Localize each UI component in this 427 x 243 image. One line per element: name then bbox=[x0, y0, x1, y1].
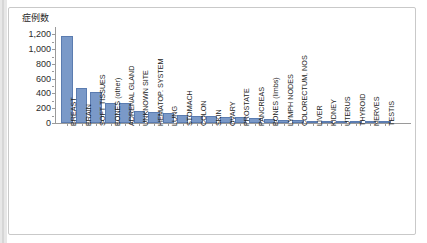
x-axis-label: PANCREAS bbox=[258, 87, 265, 126]
x-axis-label: COLORECTUM, NOS bbox=[301, 55, 308, 126]
y-minor-tick-mark bbox=[52, 86, 54, 87]
x-axis-label: COLON bbox=[200, 100, 207, 126]
x-axis-label: BONES (other) bbox=[114, 78, 121, 126]
x-tick-mark bbox=[240, 124, 241, 126]
x-axis-label: PROSTATE bbox=[243, 88, 250, 126]
x-tick-mark bbox=[67, 124, 68, 126]
x-axis-label: KIDNEY bbox=[330, 99, 337, 126]
x-axis-label: THYROID bbox=[359, 94, 366, 126]
y-minor-tick-mark bbox=[52, 71, 54, 72]
y-tick-label: 800 bbox=[36, 59, 51, 69]
x-axis-label: ADRENAL GLAND bbox=[128, 66, 135, 126]
x-tick-mark bbox=[269, 124, 270, 126]
x-tick-mark bbox=[139, 124, 140, 126]
chart-figure: 症例数 02004006008001,0001,200 BREASTBRAINS… bbox=[0, 0, 427, 243]
x-axis-label: TESTIS bbox=[388, 101, 395, 126]
x-tick-mark bbox=[212, 124, 213, 126]
x-tick-mark bbox=[370, 124, 371, 126]
x-axis-label: UTERUS bbox=[344, 96, 351, 126]
x-tick-mark bbox=[341, 124, 342, 126]
x-axis-label: UNKNOWN SITE bbox=[142, 70, 149, 126]
x-axis-label: NERVES bbox=[373, 97, 380, 126]
x-tick-mark bbox=[183, 124, 184, 126]
x-axis-label: BONES (limbs) bbox=[272, 77, 279, 126]
x-tick-mark bbox=[226, 124, 227, 126]
x-axis-label: SKIN bbox=[215, 109, 222, 126]
x-tick-mark bbox=[327, 124, 328, 126]
x-axis-label: LUNG bbox=[171, 106, 178, 126]
y-tick-label: 600 bbox=[36, 74, 51, 84]
y-tick-label: 1,200 bbox=[28, 29, 51, 39]
scan-edge-left-dark bbox=[2, 0, 4, 243]
y-axis-title: 症例数 bbox=[22, 11, 49, 24]
x-axis-label: HEMATOP. SYSTEM bbox=[157, 59, 164, 127]
x-tick-mark bbox=[385, 124, 386, 126]
x-tick-mark bbox=[154, 124, 155, 126]
x-tick-mark bbox=[255, 124, 256, 126]
x-tick-mark bbox=[82, 124, 83, 126]
x-axis-label: BREAST bbox=[70, 97, 77, 126]
x-axis-label: OVARY bbox=[229, 102, 236, 127]
y-minor-tick-mark bbox=[52, 116, 54, 117]
x-axis-label: SOFT TISSUES bbox=[99, 74, 106, 126]
y-tick-label: 400 bbox=[36, 88, 51, 98]
y-minor-tick-mark bbox=[52, 101, 54, 102]
y-tick-mark bbox=[52, 123, 55, 124]
x-tick-mark bbox=[356, 124, 357, 126]
x-tick-mark bbox=[284, 124, 285, 126]
x-tick-mark bbox=[168, 124, 169, 126]
x-axis-label: LYMPH NODES bbox=[287, 74, 294, 126]
y-tick-label: 0 bbox=[46, 118, 51, 128]
x-tick-mark bbox=[125, 124, 126, 126]
x-tick-mark bbox=[313, 124, 314, 126]
x-tick-mark bbox=[111, 124, 112, 126]
y-minor-tick-mark bbox=[52, 57, 54, 58]
x-tick-mark bbox=[96, 124, 97, 126]
x-axis-label: LIVER bbox=[316, 105, 323, 126]
x-axis-label: STOMACH bbox=[186, 90, 193, 126]
y-tick-label: 1,000 bbox=[28, 44, 51, 54]
x-tick-mark bbox=[298, 124, 299, 126]
x-axis-label: BRAIN bbox=[85, 104, 92, 126]
x-tick-mark bbox=[197, 124, 198, 126]
y-tick-label: 200 bbox=[36, 103, 51, 113]
y-minor-tick-mark bbox=[52, 42, 54, 43]
